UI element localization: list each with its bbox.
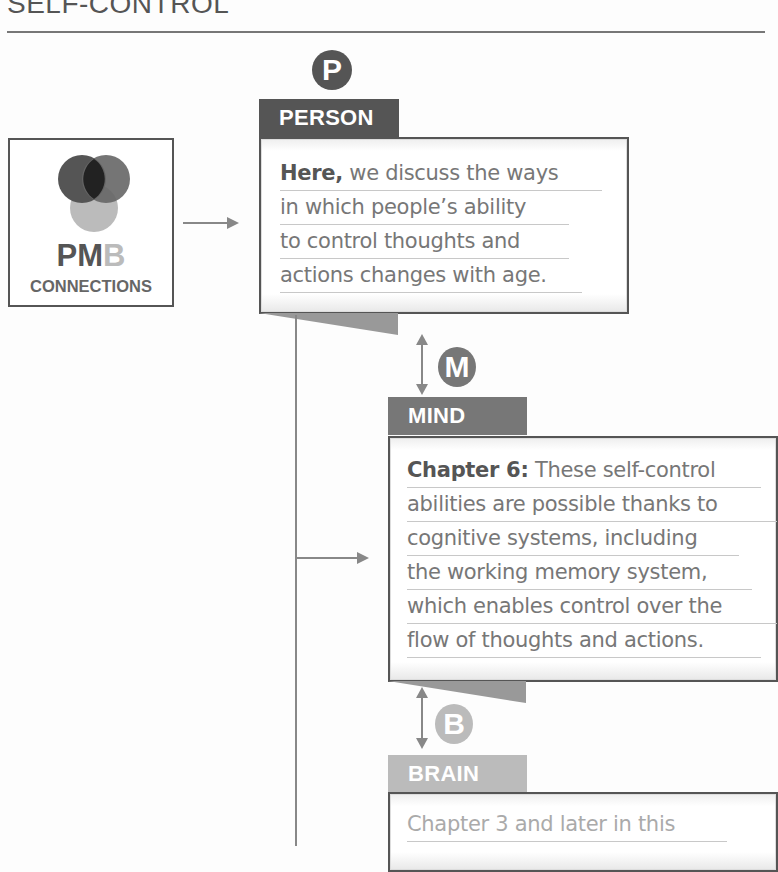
bidirectional-arrow-icon [421,336,423,393]
brain-box: Chapter 3 and later in this [388,792,778,872]
person-text-line: Here, we discuss the ways [280,157,602,191]
person-shadow-wedge [259,313,399,337]
mind-shadow-wedge [388,681,528,705]
venn-icon [58,150,130,240]
section-title: SELF-CONTROL [7,0,229,20]
person-badge-icon: P [312,50,352,90]
mind-text-line: which enables control over the [407,590,777,624]
brain-text-line: Chapter 3 and later in this [407,808,727,842]
person-label: PERSON [259,99,399,137]
brain-label: BRAIN [388,755,527,793]
person-text-line: to control thoughts and [280,225,569,259]
mind-text-line: Chapter 6: These self-control [407,454,761,488]
pmb-letters: PMB [10,238,172,274]
person-box: Here, we discuss the ways in which peopl… [259,137,629,314]
arrow-right-icon [183,222,237,224]
arrow-right-icon [297,557,367,559]
letter-b: B [103,238,125,273]
connector-line [295,315,297,846]
mind-label: MIND [388,397,527,435]
pmb-subtitle: CONNECTIONS [10,277,172,296]
mind-text-line: the working memory system, [407,556,752,590]
title-rule [7,31,765,33]
brain-badge-icon: B [435,704,473,744]
person-text-line: in which people’s ability [280,191,569,225]
letter-m: M [77,238,103,273]
person-text-line: actions changes with age. [280,259,582,293]
letter-p: P [57,238,78,273]
mind-box: Chapter 6: These self-control abilities … [388,436,778,682]
mind-text-line: abilities are possible thanks to [407,488,777,522]
pmb-connections-box: PMB CONNECTIONS [8,138,174,307]
mind-text-line: cognitive systems, including [407,522,739,556]
bidirectional-arrow-icon [421,689,423,747]
mind-badge-icon: M [438,347,476,387]
mind-text-line: flow of thoughts and actions. [407,624,761,658]
